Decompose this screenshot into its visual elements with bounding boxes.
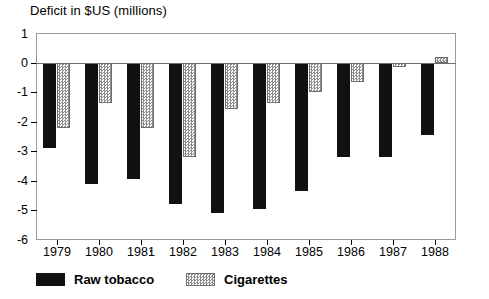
y-axis-tick-label: -6	[0, 233, 28, 247]
x-axis-tick-label: 1982	[169, 245, 197, 259]
bar-raw-tobacco-1985	[295, 63, 308, 191]
x-axis-tick-label: 1987	[379, 245, 407, 259]
y-axis-tick-mark	[31, 151, 37, 152]
y-axis-tick-mark	[31, 122, 37, 123]
chart-title: Deficit in $US (millions)	[30, 3, 167, 18]
x-axis-tick-label: 1983	[211, 245, 239, 259]
bar-cigarettes-1979	[57, 63, 70, 128]
y-axis-tick-label: 1	[0, 27, 28, 41]
stray-dot-artifact	[150, 250, 152, 252]
y-axis-tick-label: 0	[0, 56, 28, 70]
bar-raw-tobacco-1988	[421, 63, 434, 135]
legend-swatch-raw-tobacco	[36, 273, 65, 286]
bar-raw-tobacco-1980	[85, 63, 98, 184]
bar-cigarettes-1982	[183, 63, 196, 157]
x-axis-tick-label: 1984	[253, 245, 281, 259]
deficit-bar-chart: Deficit in $US (millions) 10-1-2-3-4-5-6…	[0, 0, 489, 299]
x-axis-tick-label: 1988	[421, 245, 449, 259]
legend-item-cigarettes: Cigarettes	[186, 272, 288, 287]
legend-label-cigarettes: Cigarettes	[224, 272, 288, 287]
bar-cigarettes-1986	[351, 63, 364, 82]
bar-raw-tobacco-1982	[169, 63, 182, 204]
bar-raw-tobacco-1979	[43, 63, 56, 148]
y-axis-tick-label: -4	[0, 174, 28, 188]
y-axis-tick-label: -3	[0, 144, 28, 158]
legend-item-raw-tobacco: Raw tobacco	[36, 272, 154, 287]
x-axis-tick-label: 1981	[127, 245, 155, 259]
bar-cigarettes-1980	[99, 63, 112, 103]
y-axis-tick-label: -2	[0, 115, 28, 129]
bar-cigarettes-1985	[309, 63, 322, 92]
legend-label-raw-tobacco: Raw tobacco	[74, 272, 154, 287]
bar-raw-tobacco-1983	[211, 63, 224, 213]
y-axis-tick-mark	[31, 181, 37, 182]
legend-swatch-cigarettes	[186, 273, 215, 286]
y-axis-tick-mark	[31, 92, 37, 93]
bar-cigarettes-1984	[267, 63, 280, 103]
y-axis-tick-label: -5	[0, 203, 28, 217]
x-axis-tick-label: 1986	[337, 245, 365, 259]
bar-raw-tobacco-1986	[337, 63, 350, 157]
bar-raw-tobacco-1987	[379, 63, 392, 157]
bar-raw-tobacco-1981	[127, 63, 140, 179]
x-axis-tick-label: 1980	[85, 245, 113, 259]
bar-cigarettes-1983	[225, 63, 238, 109]
y-axis-tick-label: -1	[0, 85, 28, 99]
bar-raw-tobacco-1984	[253, 63, 266, 209]
bar-cigarettes-1981	[141, 63, 154, 128]
y-axis-tick-mark	[31, 210, 37, 211]
x-axis-tick-label: 1979	[43, 245, 71, 259]
zero-baseline	[36, 63, 456, 64]
x-axis-tick-label: 1985	[295, 245, 323, 259]
